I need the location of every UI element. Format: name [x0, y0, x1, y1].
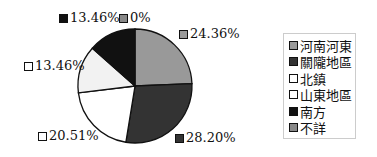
- swatch-icon: [24, 62, 33, 71]
- legend-item-guanlong: 關隴地區: [289, 54, 355, 71]
- label-value: 20.51%: [49, 129, 99, 143]
- swatch-icon: [175, 134, 184, 143]
- swatch-icon: [59, 14, 68, 23]
- swatch-icon: [119, 14, 128, 23]
- label-value: 28.20%: [186, 131, 236, 145]
- legend-item-buxiang: 不詳: [289, 120, 355, 137]
- label-value: 0%: [130, 11, 151, 25]
- legend-item-henan: 河南河東: [289, 37, 355, 54]
- label-value: 13.46%: [70, 11, 120, 25]
- legend-item-beizhen: 北鎮: [289, 70, 355, 87]
- label-value: 13.46%: [35, 59, 85, 73]
- legend-label: 不詳: [300, 118, 326, 137]
- swatch-icon: [289, 74, 298, 83]
- label-beizhen: 20.51%: [38, 129, 99, 143]
- label-henan: 24.36%: [179, 27, 240, 41]
- label-value: 24.36%: [190, 27, 240, 41]
- swatch-icon: [38, 132, 47, 141]
- label-guanlong: 28.20%: [175, 131, 236, 145]
- label-shandong: 13.46%: [24, 59, 85, 73]
- swatch-icon: [179, 30, 188, 39]
- legend-item-nanfang: 南方: [289, 103, 355, 120]
- swatch-icon: [289, 107, 298, 116]
- label-nanfang: 13.46%: [59, 11, 120, 25]
- swatch-icon: [289, 57, 298, 66]
- swatch-icon: [289, 123, 298, 132]
- label-buxiang: 0%: [119, 11, 151, 25]
- swatch-icon: [289, 90, 298, 99]
- legend-item-shandong: 山東地區: [289, 87, 355, 104]
- swatch-icon: [289, 41, 298, 50]
- legend: 河南河東 關隴地區 北鎮 山東地區 南方 不詳: [283, 33, 356, 139]
